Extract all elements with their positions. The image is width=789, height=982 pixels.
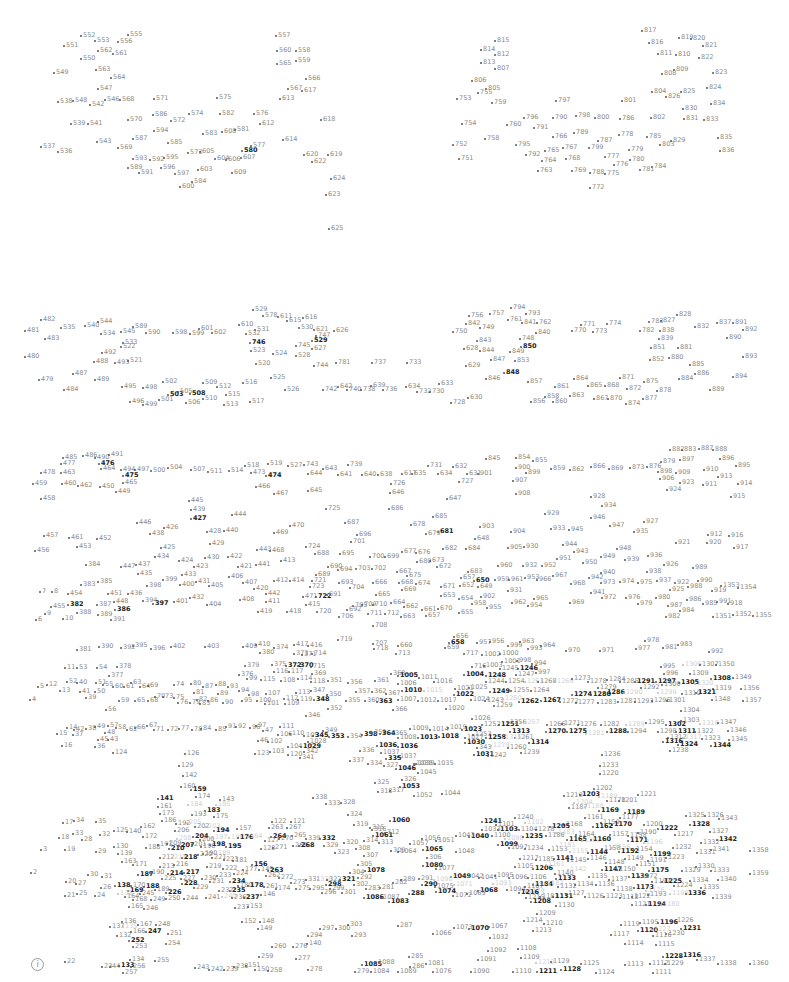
dot-point[interactable]: 909 bbox=[678, 469, 690, 476]
dot-point[interactable]: 224 bbox=[236, 870, 248, 877]
dot-point[interactable]: 824 bbox=[709, 84, 721, 91]
dot-point[interactable]: 400 bbox=[182, 581, 194, 588]
dot-point[interactable]: 717 bbox=[466, 650, 478, 657]
dot-point[interactable]: 678 bbox=[413, 521, 425, 528]
dot-point[interactable]: 231 bbox=[212, 878, 224, 885]
dot-point[interactable]: 916 bbox=[731, 532, 743, 539]
dot-point[interactable]: 40 bbox=[79, 679, 87, 686]
dot-point[interactable]: 307 bbox=[366, 852, 378, 859]
dot-point[interactable]: 558 bbox=[298, 47, 310, 54]
dot-point[interactable]: 383 bbox=[83, 581, 95, 588]
dot-point[interactable]: 500 bbox=[153, 467, 165, 474]
dot-point[interactable]: 1357 bbox=[745, 697, 762, 704]
dot-point[interactable]: 1211 bbox=[539, 968, 557, 975]
dot-point[interactable]: 479 bbox=[41, 376, 53, 383]
dot-point[interactable]: 361 bbox=[377, 677, 389, 684]
dot-point[interactable]: 49 bbox=[97, 723, 105, 730]
dot-point[interactable]: 141 bbox=[160, 795, 174, 802]
dot-point[interactable]: 367 bbox=[388, 690, 400, 697]
dot-point[interactable]: 952 bbox=[544, 562, 556, 569]
dot-point[interactable]: 830 bbox=[685, 105, 697, 112]
dot-point[interactable]: 289 bbox=[403, 876, 415, 883]
dot-point[interactable]: 395 bbox=[135, 642, 147, 649]
dot-point[interactable]: 162 bbox=[143, 823, 155, 830]
dot-point[interactable]: 27 bbox=[78, 880, 86, 887]
dot-point[interactable]: 816 bbox=[651, 39, 663, 46]
dot-point[interactable]: 333 bbox=[328, 800, 340, 807]
dot-point[interactable]: 449 bbox=[118, 488, 130, 495]
dot-point[interactable]: 442 bbox=[268, 590, 280, 597]
dot-point[interactable]: 682 bbox=[445, 545, 457, 552]
dot-point[interactable]: 459 bbox=[35, 480, 47, 487]
dot-point[interactable]: 474 bbox=[268, 472, 282, 479]
dot-point[interactable]: 860 bbox=[555, 398, 567, 405]
dot-point[interactable]: 563 bbox=[98, 66, 110, 73]
dot-point[interactable]: 638 bbox=[380, 471, 392, 478]
dot-point[interactable]: 565 bbox=[279, 60, 291, 67]
dot-point[interactable]: 908 bbox=[518, 490, 530, 497]
dot-point[interactable]: 1134 bbox=[577, 881, 594, 888]
dot-point[interactable]: 983 bbox=[680, 641, 692, 648]
dot-point[interactable]: 544 bbox=[100, 318, 112, 325]
dot-point[interactable]: 602 bbox=[214, 329, 226, 336]
dot-point[interactable]: 937 bbox=[659, 577, 671, 584]
dot-point[interactable]: 666 bbox=[375, 579, 387, 586]
dot-point[interactable]: 140 bbox=[309, 940, 321, 947]
dot-point[interactable]: 295 bbox=[312, 885, 324, 892]
dot-point[interactable]: 1028 bbox=[310, 738, 327, 745]
dot-point[interactable]: 748 bbox=[522, 335, 534, 342]
dot-point[interactable]: 778 bbox=[621, 131, 633, 138]
dot-point[interactable]: 267 bbox=[289, 824, 301, 831]
dot-point[interactable]: 1113 bbox=[627, 961, 644, 968]
dot-point[interactable]: 19 bbox=[67, 846, 75, 853]
dot-point[interactable]: 901 bbox=[480, 470, 492, 477]
dot-point[interactable]: 823 bbox=[715, 69, 727, 76]
dot-point[interactable]: 1070 bbox=[471, 925, 489, 932]
dot-point[interactable]: 754 bbox=[464, 120, 476, 127]
dot-point[interactable]: 12 bbox=[49, 681, 57, 688]
dot-point[interactable]: 1161 bbox=[587, 814, 604, 821]
dot-point[interactable]: 826 bbox=[668, 93, 680, 100]
dot-point[interactable]: 386 bbox=[117, 606, 131, 613]
dot-point[interactable]: 820 bbox=[693, 35, 705, 42]
dot-point[interactable]: 552 bbox=[83, 32, 95, 39]
dot-point[interactable]: 53 bbox=[79, 664, 87, 671]
dot-point[interactable]: 701 bbox=[353, 538, 365, 545]
dot-point[interactable]: 522 bbox=[123, 343, 135, 350]
dot-point[interactable]: 425 bbox=[163, 544, 175, 551]
dot-point[interactable]: 253 bbox=[135, 943, 147, 950]
dot-point[interactable]: 1036 bbox=[400, 743, 418, 750]
dot-point[interactable]: 491 bbox=[111, 451, 123, 458]
dot-point[interactable]: 785 bbox=[649, 133, 661, 140]
dot-point[interactable]: 348 bbox=[316, 696, 330, 703]
dot-point[interactable]: 649 bbox=[480, 583, 492, 590]
dot-point[interactable]: 413 bbox=[283, 557, 295, 564]
dot-point[interactable]: 997 bbox=[538, 669, 550, 676]
dot-point[interactable]: 312 bbox=[387, 829, 399, 836]
dot-point[interactable]: 780 bbox=[632, 156, 644, 163]
dot-point[interactable]: 610 bbox=[241, 321, 253, 328]
dot-point[interactable]: 981 bbox=[665, 644, 677, 651]
dot-point[interactable]: 847 bbox=[493, 356, 505, 363]
dot-point[interactable]: 551 bbox=[66, 42, 78, 49]
dot-point[interactable]: 1160 bbox=[593, 836, 611, 843]
dot-point[interactable]: 1350 bbox=[718, 661, 735, 668]
dot-point[interactable]: 1233 bbox=[602, 762, 619, 769]
dot-point[interactable]: 412 bbox=[276, 577, 288, 584]
dot-point[interactable]: 484 bbox=[66, 386, 78, 393]
dot-point[interactable]: 781 bbox=[642, 166, 654, 173]
dot-point[interactable]: 643 bbox=[325, 465, 337, 472]
dot-point[interactable]: 72 bbox=[170, 726, 178, 733]
dot-point[interactable]: 174 bbox=[278, 885, 290, 892]
dot-point[interactable]: 591 bbox=[141, 169, 153, 176]
dot-point[interactable]: 453 bbox=[79, 543, 91, 550]
dot-point[interactable]: 1088 bbox=[378, 959, 395, 966]
dot-point[interactable]: 810 bbox=[678, 51, 690, 58]
dot-point[interactable]: 384 bbox=[88, 561, 100, 568]
dot-point[interactable]: 3 bbox=[43, 846, 47, 853]
dot-point[interactable]: 669 bbox=[404, 586, 416, 593]
dot-point[interactable]: 435 bbox=[140, 570, 152, 577]
dot-point[interactable]: 139 bbox=[120, 850, 132, 857]
dot-to-dot-canvas[interactable]: 5525535555565515625615505495635645475385… bbox=[0, 0, 789, 982]
dot-point[interactable]: 814 bbox=[483, 46, 495, 53]
